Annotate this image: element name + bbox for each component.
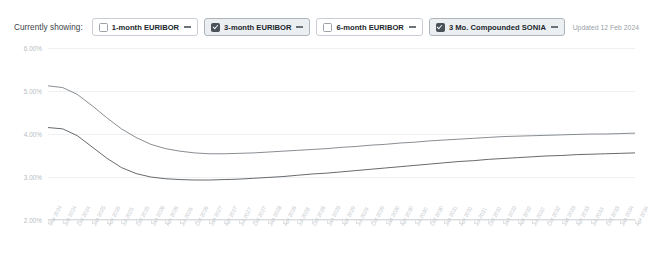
chart-toolbar: Currently showing: 1-month EURIBOR3-mont… xyxy=(0,14,653,40)
checkbox-icon[interactable] xyxy=(323,23,332,32)
series-chip-0[interactable]: 1-month EURIBOR xyxy=(92,18,198,36)
checkbox-icon[interactable] xyxy=(99,23,108,32)
y-axis-tick-label: 4.00% xyxy=(24,131,42,138)
series-color-swatch-icon xyxy=(184,26,191,27)
currently-showing-label: Currently showing: xyxy=(14,23,83,32)
forward-curve-widget: Currently showing: 1-month EURIBOR3-mont… xyxy=(0,0,653,265)
series-chip-3[interactable]: 3 Mo. Compounded SONIA xyxy=(429,18,565,36)
x-axis-labels: Mar 2024Jun 2024Oct 2024Jan 2025Apr 2025… xyxy=(48,224,635,265)
y-axis-tick-label: 5.00% xyxy=(24,88,42,95)
series-chip-1[interactable]: 3-month EURIBOR xyxy=(204,18,310,36)
series-color-swatch-icon xyxy=(551,26,558,27)
checkbox-icon[interactable] xyxy=(211,23,220,32)
series-chip-label: 1-month EURIBOR xyxy=(112,23,179,32)
chart-area: 6.00%5.00%4.00%3.00%2.00% Mar 2024Jun 20… xyxy=(0,44,653,265)
y-axis-tick-label: 2.00% xyxy=(24,217,42,224)
updated-timestamp: Updated 12 Feb 2024 xyxy=(573,24,639,31)
series-color-swatch-icon xyxy=(409,26,416,27)
plot-region: 6.00%5.00%4.00%3.00%2.00% xyxy=(48,48,635,220)
series-chip-label: 3-month EURIBOR xyxy=(224,23,291,32)
y-axis-tick-label: 6.00% xyxy=(24,45,42,52)
series-filter-chips: 1-month EURIBOR3-month EURIBOR6-month EU… xyxy=(92,18,565,36)
series-line-0 xyxy=(48,86,635,154)
y-axis-tick-label: 3.00% xyxy=(24,174,42,181)
series-lines xyxy=(48,48,635,220)
series-chip-label: 6-month EURIBOR xyxy=(336,23,403,32)
x-axis-tick-label: Apr 2034 xyxy=(634,205,649,227)
checkbox-icon[interactable] xyxy=(436,23,445,32)
series-color-swatch-icon xyxy=(296,26,303,27)
series-chip-label: 3 Mo. Compounded SONIA xyxy=(449,23,546,32)
series-chip-2[interactable]: 6-month EURIBOR xyxy=(316,18,422,36)
